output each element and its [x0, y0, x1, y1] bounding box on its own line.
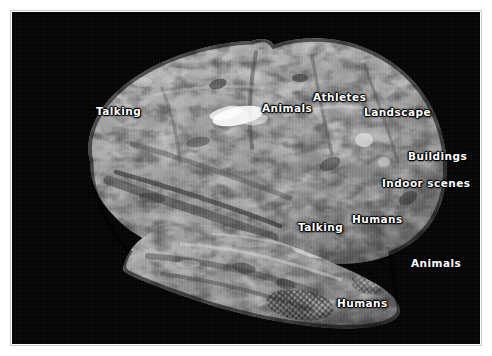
- map-label-landscape: Landscape: [364, 107, 431, 118]
- brain-image-canvas: Talking Animals Athletes Landscape Build…: [12, 12, 480, 344]
- figure-frame: Talking Animals Athletes Landscape Build…: [0, 0, 492, 356]
- map-label-indoor-scenes: Indoor scenes: [382, 178, 470, 189]
- map-label-humans-lateral: Humans: [352, 214, 403, 225]
- map-label-animals-posterior: Animals: [411, 258, 461, 269]
- map-label-talking-frontal: Talking: [96, 106, 141, 117]
- map-label-animals-superior: Animals: [262, 103, 312, 114]
- map-label-talking-temporal: Talking: [298, 222, 343, 233]
- map-label-humans-inferior: Humans: [337, 298, 388, 309]
- map-label-buildings: Buildings: [408, 151, 467, 162]
- map-label-athletes: Athletes: [313, 92, 366, 103]
